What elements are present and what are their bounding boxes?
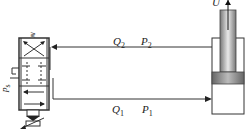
piston (212, 72, 244, 84)
variable-solenoid-icon (20, 116, 44, 129)
arrow-left-icon (51, 44, 57, 50)
supply-line (53, 78, 212, 102)
arrow-up-icon (225, 0, 231, 5)
arrow-right-icon (205, 96, 212, 102)
return-line (50, 44, 212, 70)
flow-q1-label: Q1 (112, 104, 124, 118)
velocity-label: U (212, 0, 220, 8)
servo-valve: ≷ (10, 31, 49, 129)
pressure-p1-label: P1 (142, 104, 153, 118)
spring-symbol: ≷ (30, 31, 36, 39)
pressure-p2-label: P2 (141, 36, 152, 50)
supply-pressure-label: ps (0, 84, 12, 92)
hydraulic-cylinder (212, 0, 244, 114)
flow-q2-label: Q2 (113, 36, 125, 50)
hydraulic-diagram: ≷ (0, 0, 248, 136)
